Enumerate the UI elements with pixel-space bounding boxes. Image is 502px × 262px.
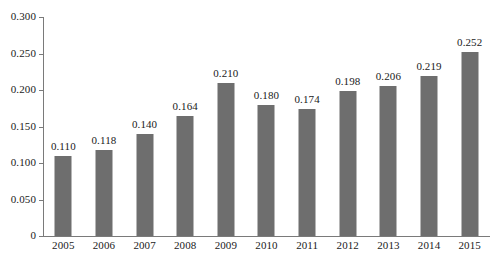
bar-value-label: 0.180 bbox=[254, 90, 279, 101]
y-axis-tick-mark bbox=[39, 163, 43, 164]
bar-value-label: 0.174 bbox=[295, 94, 320, 105]
bar bbox=[258, 105, 275, 236]
x-axis-tick-label: 2014 bbox=[409, 239, 450, 252]
bar-group: 0.140 bbox=[124, 17, 165, 236]
bar-group: 0.198 bbox=[327, 17, 368, 236]
bar-group: 0.118 bbox=[84, 17, 125, 236]
x-axis-line bbox=[43, 236, 490, 237]
bar-value-label: 0.198 bbox=[335, 76, 360, 87]
bar bbox=[380, 86, 397, 236]
bar bbox=[55, 156, 72, 236]
plot-area: 0.1100.1180.1400.1640.2100.1800.1740.198… bbox=[43, 17, 490, 236]
x-axis-tick-label: 2008 bbox=[165, 239, 206, 252]
bar-value-label: 0.164 bbox=[173, 101, 198, 112]
bar-chart-figure: 0.1100.1180.1400.1640.2100.1800.1740.198… bbox=[0, 0, 502, 262]
bar-value-label: 0.210 bbox=[213, 68, 238, 79]
bar-group: 0.164 bbox=[165, 17, 206, 236]
x-axis-tick-label: 2007 bbox=[124, 239, 165, 252]
y-axis-tick-label: 0.200 bbox=[0, 84, 36, 95]
x-axis-tick-label: 2010 bbox=[246, 239, 287, 252]
bar-value-label: 0.252 bbox=[457, 37, 482, 48]
bar bbox=[95, 150, 112, 236]
y-axis-tick-mark bbox=[39, 200, 43, 201]
bar bbox=[339, 91, 356, 236]
y-axis-tick-mark bbox=[39, 90, 43, 91]
bar-value-label: 0.118 bbox=[92, 135, 117, 146]
y-axis-tick-mark bbox=[39, 127, 43, 128]
bar-value-label: 0.206 bbox=[376, 71, 401, 82]
x-axis-tick-label: 2011 bbox=[287, 239, 328, 252]
y-axis-tick-label: 0.050 bbox=[0, 194, 36, 205]
bar-value-label: 0.110 bbox=[51, 141, 76, 152]
y-axis-tick-label: 0.300 bbox=[0, 11, 36, 22]
bar-group: 0.110 bbox=[43, 17, 84, 236]
bar bbox=[177, 116, 194, 236]
x-axis-tick-label: 2005 bbox=[43, 239, 84, 252]
bar-group: 0.180 bbox=[246, 17, 287, 236]
bar bbox=[461, 52, 478, 236]
y-axis-tick-mark bbox=[39, 54, 43, 55]
x-axis-tick-label: 2012 bbox=[327, 239, 368, 252]
bar-group: 0.174 bbox=[287, 17, 328, 236]
x-axis-tick-label: 2009 bbox=[206, 239, 247, 252]
x-axis-tick-label: 2015 bbox=[449, 239, 490, 252]
bar bbox=[217, 83, 234, 236]
y-axis-tick-label: 0.100 bbox=[0, 157, 36, 168]
bar bbox=[136, 134, 153, 236]
y-axis-tick-mark bbox=[39, 236, 43, 237]
y-axis-tick-label: 0.250 bbox=[0, 48, 36, 59]
x-axis-tick-label: 2013 bbox=[368, 239, 409, 252]
bar-value-label: 0.140 bbox=[132, 119, 157, 130]
bar bbox=[299, 109, 316, 236]
bar-group: 0.210 bbox=[206, 17, 247, 236]
bar-value-label: 0.219 bbox=[416, 61, 441, 72]
bar-group: 0.219 bbox=[409, 17, 450, 236]
bar-group: 0.252 bbox=[449, 17, 490, 236]
y-axis-tick-label: 0.150 bbox=[0, 121, 36, 132]
x-axis-tick-label: 2006 bbox=[84, 239, 125, 252]
x-axis-labels: 2005200620072008200920102011201220132014… bbox=[43, 239, 490, 259]
y-axis-tick-label: 0 bbox=[0, 230, 36, 241]
bar-group: 0.206 bbox=[368, 17, 409, 236]
bar bbox=[421, 76, 438, 236]
y-axis-tick-mark bbox=[39, 17, 43, 18]
